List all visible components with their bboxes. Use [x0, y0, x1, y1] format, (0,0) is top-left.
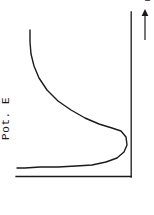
- potential-energy-figure: Pot. E r: [0, 0, 154, 215]
- plot-canvas: [0, 0, 154, 215]
- x-axis-label: r: [144, 0, 153, 2]
- potential-energy-curve: [17, 30, 127, 168]
- y-axis-label: Pot. E: [1, 97, 12, 140]
- axis-direction-arrow-icon: [142, 9, 149, 40]
